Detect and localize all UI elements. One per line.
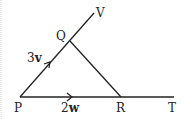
label-T: T: [168, 101, 176, 115]
line-QR: [70, 41, 121, 97]
label-Q: Q: [56, 29, 66, 43]
vector-label-PR: 2w: [61, 101, 80, 115]
label-V: V: [95, 6, 105, 20]
label-R: R: [116, 101, 126, 115]
label-P: P: [14, 101, 22, 115]
vector-label-PQ: 3v: [27, 51, 43, 65]
triangle-vector-diagram: P Q V R T 3v 2w: [0, 0, 185, 119]
